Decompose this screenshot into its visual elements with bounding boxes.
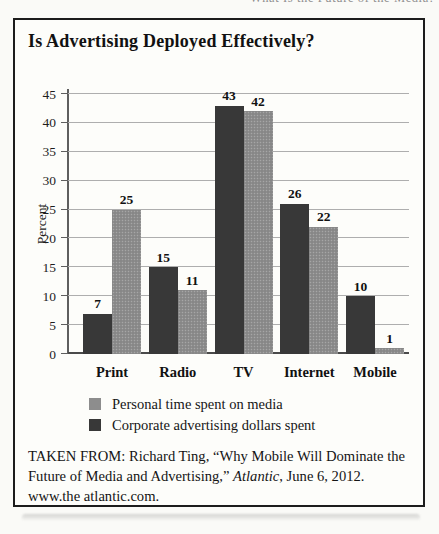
bar-mobile-dark: 10: [346, 296, 375, 354]
running-header-clipped: What Is the Future of the Media?: [205, 0, 435, 5]
bar-value-label: 7: [94, 297, 101, 311]
legend-label: Personal time spent on media: [112, 397, 283, 412]
bar-group-radio: 1511Radio: [149, 94, 207, 354]
legend-swatch: [89, 398, 101, 410]
category-label-radio: Radio: [159, 364, 196, 381]
y-axis-tick: [61, 93, 68, 94]
y-axis-tick-label: 40: [43, 116, 57, 130]
bar-groups: 725Print1511Radio4342TV2622Internet101Mo…: [68, 94, 409, 354]
y-axis-tick-label: 20: [43, 232, 57, 246]
y-axis-tick-label: 10: [43, 289, 57, 303]
y-axis-tick-label: 45: [43, 87, 57, 101]
bar-group-print: 725Print: [83, 94, 141, 354]
y-axis-tick: [61, 266, 68, 267]
bar-group-tv: 4342TV: [215, 94, 273, 354]
bar-value-label: 43: [222, 89, 236, 103]
category-label-print: Print: [96, 364, 128, 381]
bar-value-label: 25: [120, 193, 134, 207]
bar-value-label: 1: [386, 332, 393, 346]
bar-group-mobile: 101Mobile: [346, 94, 404, 354]
bar-value-label: 11: [186, 274, 199, 288]
bar-value-label: 15: [157, 251, 171, 265]
bar-value-label: 10: [354, 280, 368, 294]
y-axis-tick: [61, 237, 68, 238]
bar-tv-dark: 43: [215, 106, 244, 354]
y-axis-tick: [61, 295, 68, 296]
bar-internet-dark: 26: [280, 204, 309, 354]
bar-value-label: 42: [251, 95, 265, 109]
y-axis-tick-label: 5: [49, 318, 56, 332]
category-label-internet: Internet: [284, 364, 335, 381]
y-axis-tick: [61, 353, 68, 354]
figure-title: Is Advertising Deployed Effectively?: [28, 31, 315, 52]
page-scan-shadow: [22, 514, 420, 521]
source-text-italic: Atlantic: [233, 468, 279, 484]
y-axis-tick-label: 0: [49, 347, 56, 361]
y-axis-tick-label: 30: [43, 174, 57, 188]
legend-item: Personal time spent on media: [89, 397, 315, 412]
bar-value-label: 26: [288, 187, 302, 201]
y-axis-tick-label: 35: [43, 145, 57, 159]
legend: Personal time spent on mediaCorporate ad…: [89, 397, 315, 438]
legend-item: Corporate advertising dollars spent: [89, 418, 315, 433]
figure-box: Is Advertising Deployed Effectively? Per…: [13, 18, 425, 507]
category-label-tv: TV: [233, 364, 253, 381]
legend-label: Corporate advertising dollars spent: [112, 418, 315, 433]
y-axis-tick-label: 25: [43, 203, 57, 217]
bar-print-gray: 25: [112, 210, 141, 354]
bar-internet-gray: 22: [309, 227, 338, 354]
y-axis-tick: [61, 151, 68, 152]
legend-swatch: [89, 419, 101, 431]
bar-mobile-gray: 1: [375, 348, 404, 354]
running-header-text: What Is the Future of the Media?: [205, 0, 435, 5]
bar-tv-gray: 42: [244, 111, 273, 354]
y-axis-tick: [61, 122, 68, 123]
plot-area: 051015202530354045725Print1511Radio4342T…: [68, 94, 409, 354]
chart-region: Percent 051015202530354045725Print1511Ra…: [68, 94, 409, 354]
bar-radio-gray: 11: [178, 290, 207, 354]
y-axis-tick: [61, 180, 68, 181]
bar-value-label: 22: [317, 210, 331, 224]
source-citation: TAKEN FROM: Richard Ting, “Why Mobile Wi…: [28, 447, 414, 507]
y-axis-tick: [61, 209, 68, 210]
bar-group-internet: 2622Internet: [280, 94, 338, 354]
y-axis-tick: [61, 324, 68, 325]
category-label-mobile: Mobile: [353, 364, 397, 381]
bar-print-dark: 7: [83, 314, 112, 354]
bar-radio-dark: 15: [149, 267, 178, 354]
y-axis-tick-label: 15: [43, 261, 57, 275]
